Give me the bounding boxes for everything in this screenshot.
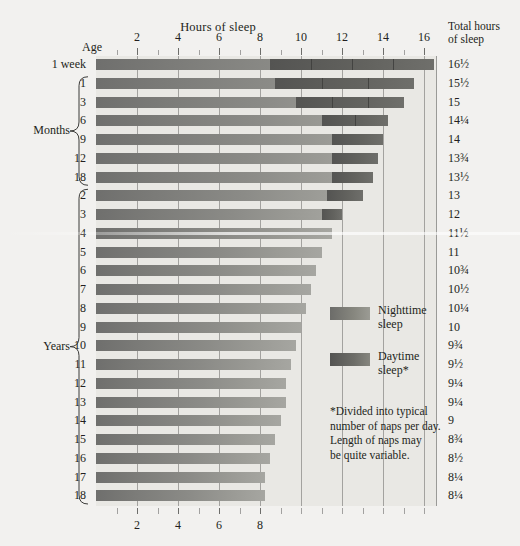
x-tick-bottom-15 bbox=[404, 508, 405, 514]
x-tick-label-top-8: 8 bbox=[248, 30, 272, 45]
x-tick-bottom-10 bbox=[301, 508, 302, 514]
total-hours-label: 16½ bbox=[448, 57, 512, 72]
age-label: 3 bbox=[0, 207, 86, 222]
x-tick-bottom-14 bbox=[383, 508, 384, 514]
nap-divider bbox=[311, 59, 312, 70]
bar-daytime-sleep bbox=[332, 172, 373, 183]
x-tick-label-top-4: 4 bbox=[166, 30, 190, 45]
x-tick-top-6 bbox=[219, 48, 220, 55]
sleep-chart: Hours of sleep Total hours of sleep Age … bbox=[0, 0, 520, 546]
total-hours-label: 11 bbox=[448, 245, 512, 260]
x-tick-label-top-12: 12 bbox=[330, 30, 354, 45]
x-tick-minor-top-3 bbox=[158, 50, 159, 55]
x-tick-top-10 bbox=[301, 48, 302, 55]
age-label: 13 bbox=[0, 395, 86, 410]
x-tick-minor-top-7 bbox=[240, 50, 241, 55]
age-label: 12 bbox=[0, 376, 86, 391]
total-hours-label: 14¼ bbox=[448, 113, 512, 128]
x-tick-minor-top-13 bbox=[363, 50, 364, 55]
bar-row bbox=[96, 187, 437, 206]
bar-row bbox=[96, 244, 437, 263]
bar-nighttime-sleep bbox=[96, 415, 281, 426]
x-tick-label-bottom-4: 4 bbox=[166, 518, 190, 533]
bar-nighttime-sleep bbox=[96, 340, 296, 351]
legend-swatch-nighttime bbox=[330, 307, 370, 320]
bar-nighttime-sleep bbox=[96, 247, 322, 258]
x-tick-label-top-10: 10 bbox=[289, 30, 313, 45]
age-label: 18 bbox=[0, 488, 86, 503]
age-label: 17 bbox=[0, 470, 86, 485]
total-hours-label: 10¾ bbox=[448, 263, 512, 278]
total-hours-label: 15½ bbox=[448, 76, 512, 91]
bar-nighttime-sleep bbox=[96, 359, 291, 370]
age-label: 4 bbox=[0, 226, 86, 241]
bar-row bbox=[96, 281, 437, 300]
x-tick-minor-top-1 bbox=[117, 50, 118, 55]
bar-nighttime-sleep bbox=[96, 190, 363, 201]
x-tick-top-16 bbox=[424, 48, 425, 55]
total-hours-label: 14 bbox=[448, 132, 512, 147]
x-tick-bottom-8 bbox=[260, 508, 261, 514]
footnote-line-3: Length of naps may bbox=[330, 433, 480, 448]
age-label: 1 bbox=[0, 76, 86, 91]
age-column-title: Age bbox=[62, 40, 102, 55]
total-hours-label: 11½ bbox=[448, 226, 512, 241]
total-hours-label: 12 bbox=[448, 207, 512, 222]
age-label: 15 bbox=[0, 432, 86, 447]
bar-nighttime-sleep bbox=[96, 303, 306, 314]
bar-row bbox=[96, 262, 437, 281]
legend-label-daytime-line2: sleep* bbox=[378, 363, 458, 377]
bar-row bbox=[96, 225, 437, 244]
age-label: 3 bbox=[0, 95, 86, 110]
age-label: 6 bbox=[0, 263, 86, 278]
x-tick-minor-top-5 bbox=[199, 50, 200, 55]
bar-nighttime-sleep bbox=[96, 472, 265, 483]
age-label: 8 bbox=[0, 301, 86, 316]
nap-divider bbox=[393, 59, 394, 70]
nap-divider bbox=[332, 97, 333, 108]
legend-row-daytime: Daytime sleep* bbox=[330, 351, 450, 385]
age-label: 11 bbox=[0, 357, 86, 372]
x-tick-minor-top-9 bbox=[281, 50, 282, 55]
x-tick-label-top-2: 2 bbox=[125, 30, 149, 45]
x-tick-bottom-1 bbox=[117, 508, 118, 514]
x-tick-label-top-16: 16 bbox=[412, 30, 436, 45]
x-tick-top-4 bbox=[178, 48, 179, 55]
x-tick-top-12 bbox=[342, 48, 343, 55]
age-label: 14 bbox=[0, 413, 86, 428]
bar-row bbox=[96, 112, 437, 131]
x-tick-bottom-7 bbox=[240, 508, 241, 514]
bar-nighttime-sleep bbox=[96, 434, 275, 445]
bar-row bbox=[96, 469, 437, 488]
x-tick-top-8 bbox=[260, 48, 261, 55]
age-label: 1 week bbox=[0, 57, 86, 72]
total-hours-label: 8¼ bbox=[448, 470, 512, 485]
bar-row bbox=[96, 94, 437, 113]
age-label: 5 bbox=[0, 245, 86, 260]
bar-daytime-sleep bbox=[332, 134, 383, 145]
x-tick-minor-top-11 bbox=[322, 50, 323, 55]
x-tick-bottom-13 bbox=[363, 508, 364, 514]
x-tick-label-top-14: 14 bbox=[371, 30, 395, 45]
bar-daytime-sleep bbox=[275, 78, 413, 89]
x-tick-bottom-6 bbox=[219, 508, 220, 514]
legend-label-daytime: Daytime sleep* bbox=[378, 349, 458, 377]
group-label-years: Years bbox=[8, 339, 70, 354]
legend-label-nighttime: Nighttime sleep bbox=[378, 303, 458, 331]
total-hours-label: 13 bbox=[448, 188, 512, 203]
x-tick-bottom-12 bbox=[342, 508, 343, 514]
legend: Nighttime sleep Daytime sleep* bbox=[330, 305, 450, 385]
total-hours-title: Total hours of sleep bbox=[448, 20, 518, 46]
bar-nighttime-sleep bbox=[96, 265, 316, 276]
bar-row bbox=[96, 487, 437, 506]
x-tick-top-14 bbox=[383, 48, 384, 55]
bar-row bbox=[96, 206, 437, 225]
bar-nighttime-sleep bbox=[96, 228, 332, 239]
bar-nighttime-sleep bbox=[96, 284, 311, 295]
bar-row bbox=[96, 75, 437, 94]
x-tick-bottom-9 bbox=[281, 508, 282, 514]
bar-nighttime-sleep bbox=[96, 397, 286, 408]
footnote-line-4: be quite variable. bbox=[330, 448, 480, 463]
bar-daytime-sleep bbox=[332, 153, 378, 164]
footnote-line-1: *Divided into typical bbox=[330, 404, 480, 419]
